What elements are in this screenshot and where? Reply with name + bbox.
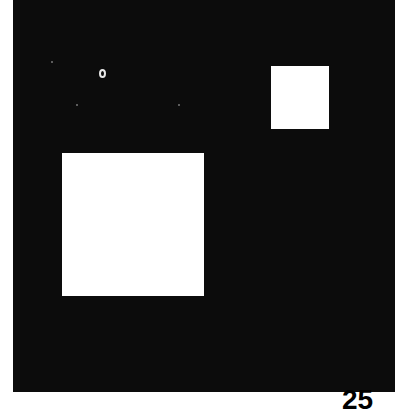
speck [51,61,53,63]
corner-label: 25 [342,386,373,413]
large-white-square [62,153,204,296]
ring-artifact [99,69,106,78]
speck [178,104,180,106]
speck [76,104,78,106]
small-white-square [271,66,329,129]
